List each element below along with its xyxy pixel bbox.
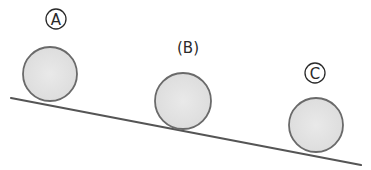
- ball-b: [155, 73, 211, 129]
- ball-c: [289, 98, 343, 152]
- label-c: C: [305, 63, 325, 83]
- diagram-svg: A (B) C: [0, 0, 371, 170]
- ball-a: [23, 47, 77, 101]
- slope-diagram: A (B) C: [0, 0, 371, 170]
- label-c-text: C: [310, 65, 320, 83]
- label-b-text: (B): [177, 39, 199, 57]
- label-a-text: A: [51, 11, 62, 29]
- label-a: A: [46, 9, 66, 29]
